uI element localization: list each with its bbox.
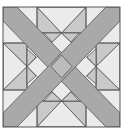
hourglass-bottom (37, 101, 86, 127)
hourglass-left (3, 43, 27, 90)
hourglass-right (96, 43, 120, 90)
hourglass-top (37, 7, 86, 33)
quilt-block-diagram (0, 0, 131, 131)
